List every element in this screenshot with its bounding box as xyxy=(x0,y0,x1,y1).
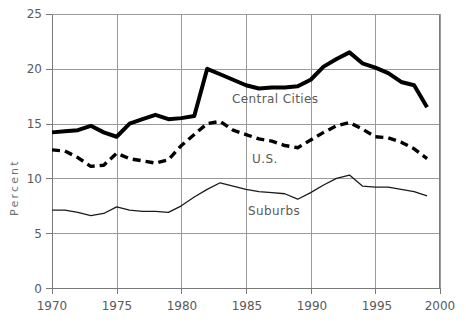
series-label-us: U.S. xyxy=(252,152,278,166)
y-tick-label-15: 15 xyxy=(0,117,42,131)
plot-area xyxy=(0,0,466,329)
series-label-central-cities: Central Cities xyxy=(232,92,319,106)
grid-lines xyxy=(52,14,441,289)
x-tick-label-1980: 1980 xyxy=(157,299,207,313)
x-tick-label-1995: 1995 xyxy=(352,299,402,313)
y-tick-label-10: 10 xyxy=(0,172,42,186)
y-tick-label-0: 0 xyxy=(0,282,42,296)
x-tick-label-1990: 1990 xyxy=(287,299,337,313)
x-tick-label-1985: 1985 xyxy=(222,299,272,313)
y-tick-label-25: 25 xyxy=(0,7,42,21)
axis-ticks xyxy=(46,15,441,295)
x-tick-label-1975: 1975 xyxy=(92,299,142,313)
y-tick-label-5: 5 xyxy=(0,227,42,241)
x-tick-label-1970: 1970 xyxy=(27,299,77,313)
data-series xyxy=(52,52,427,215)
series-line-u-s xyxy=(52,121,427,166)
y-tick-label-20: 20 xyxy=(0,62,42,76)
series-label-suburbs: Suburbs xyxy=(248,204,300,218)
x-tick-label-2000: 2000 xyxy=(415,299,465,313)
y-axis-title: Percent xyxy=(8,159,21,216)
series-line-suburbs xyxy=(52,175,427,216)
line-chart: Percent 25 20 15 10 5 0 1970 1975 1980 1… xyxy=(0,0,466,329)
